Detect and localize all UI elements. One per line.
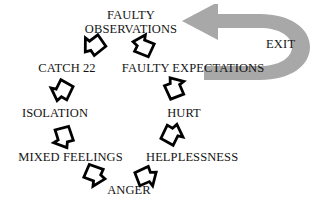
node-label-mixed-feelings: MIXED FEELINGS	[16, 151, 125, 165]
node-label-faulty-expectations: FAULTY EXPECTATIONS	[119, 62, 267, 76]
arrow-glyph-hurt-to-helplessness	[156, 117, 190, 151]
exit-label: EXIT	[266, 37, 295, 51]
node-label-isolation: ISOLATION	[21, 107, 89, 121]
node-label-catch-22: CATCH 22	[36, 62, 98, 76]
node-label-faulty-observations-line1: FAULTY	[82, 8, 180, 22]
diagram-canvas: EXIT FAULTY OBSERVATIONS FAULTY EXPECTAT…	[0, 0, 320, 205]
node-label-helplessness: HELPLESSNESS	[146, 151, 236, 165]
arrow-glyph-isolation-to-catch22	[44, 74, 78, 108]
exit-u-turn-arrow	[178, 4, 320, 90]
